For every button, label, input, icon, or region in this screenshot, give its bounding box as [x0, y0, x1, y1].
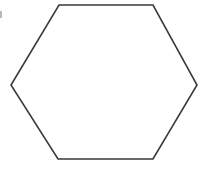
drawing-canvas — [0, 0, 206, 179]
scan-speck-artifact — [0, 11, 2, 18]
hexagon-figure — [0, 0, 206, 179]
hexagon-outline — [11, 5, 197, 159]
